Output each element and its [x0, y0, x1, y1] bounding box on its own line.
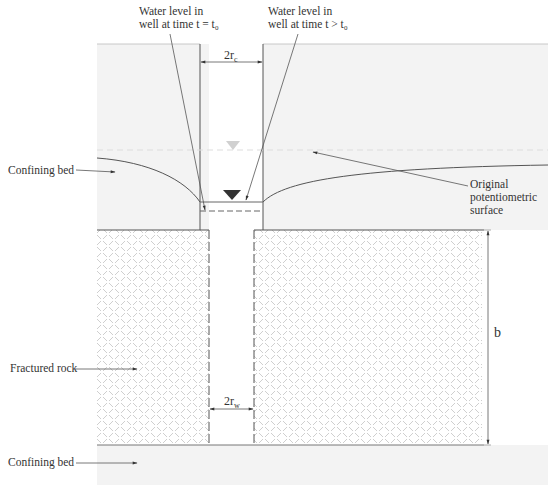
label-confining-bed-bottom: Confining bed [8, 456, 74, 469]
label-casing-diameter: 2rc [224, 48, 238, 64]
borehole-walls [209, 230, 254, 445]
label-aquifer-thickness: b [494, 325, 501, 341]
lower-confining-bed [97, 445, 548, 485]
label-confining-bed-top: Confining bed [8, 164, 74, 177]
label-water-level-t: Water level in well at time t > t₀ [268, 5, 348, 31]
label-original-potentiometric-surface: Original potentiometric surface [470, 178, 537, 217]
label-fractured-rock: Fractured rock [10, 362, 77, 375]
label-well-diameter: 2rw [224, 394, 240, 410]
aquifer-thickness-dimension [484, 230, 491, 445]
water-level-marker-light-icon [226, 141, 240, 150]
label-water-level-t0: Water level in well at time t = t₀ [139, 5, 219, 31]
well-diagram [0, 0, 548, 491]
fractured-rock-aquifer [97, 230, 484, 445]
water-level-marker-dark-icon [223, 190, 241, 200]
